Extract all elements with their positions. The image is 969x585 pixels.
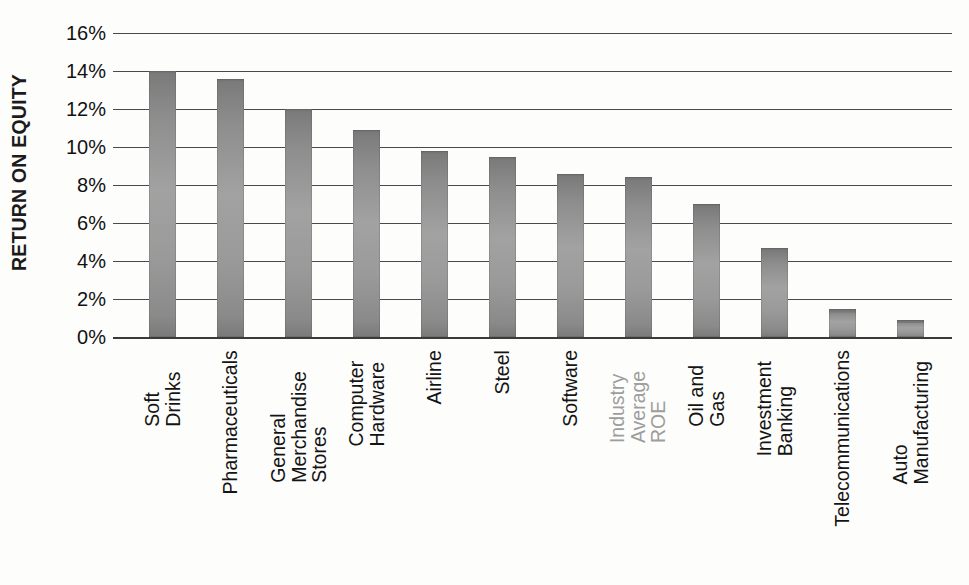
x-axis-category-label-text: Soft Drinks [142, 361, 183, 427]
x-axis-category-label-text: Investment Banking [754, 361, 795, 456]
bar[interactable] [625, 177, 652, 337]
bar[interactable] [217, 79, 244, 337]
y-axis-title-label: RETURN ON EQUITY [9, 74, 32, 271]
x-axis-category-label[interactable]: Auto Manufacturing [878, 340, 944, 580]
x-axis-category-label-text: Steel [492, 350, 513, 394]
bar[interactable] [421, 151, 448, 337]
x-axis-category-labels: Soft DrinksPharmaceuticalsGeneral Mercha… [113, 340, 952, 585]
bar[interactable] [693, 204, 720, 337]
roe-bar-chart: RETURN ON EQUITY 16%14%12%10%8%6%4%2%0% … [0, 0, 969, 585]
y-axis-tick-label: 2% [42, 289, 106, 309]
x-axis-category-label[interactable]: Investment Banking [742, 340, 808, 580]
x-axis-category-label[interactable]: Industry Average ROE [606, 340, 672, 580]
x-axis-category-label-text: Pharmaceuticals [220, 350, 241, 494]
x-axis-category-label-text: Telecommunications [832, 350, 853, 527]
y-axis-tick-label: 4% [42, 251, 106, 271]
bar[interactable] [489, 157, 516, 338]
gridline [113, 33, 952, 34]
bar[interactable] [761, 248, 788, 337]
y-axis-tick-label: 8% [42, 175, 106, 195]
x-axis-category-label-text: Oil and Gas [686, 361, 727, 427]
y-axis-tick-label: 14% [42, 61, 106, 81]
bar[interactable] [829, 309, 856, 338]
bar[interactable] [149, 71, 176, 337]
bar[interactable] [285, 109, 312, 337]
x-axis-category-label-text: Airline [424, 350, 445, 404]
y-axis-tick-label: 6% [42, 213, 106, 233]
x-axis-category-label[interactable]: General Merchandise Stores [266, 340, 332, 580]
x-axis-category-label[interactable]: Soft Drinks [130, 340, 196, 580]
x-axis-category-label[interactable]: Software [538, 340, 604, 580]
y-axis-tick-label: 12% [42, 99, 106, 119]
y-axis-tick-label: 0% [42, 327, 106, 347]
x-axis-category-label[interactable]: Oil and Gas [674, 340, 740, 580]
bar[interactable] [557, 174, 584, 337]
x-axis-category-label[interactable]: Steel [470, 340, 536, 580]
y-axis-title: RETURN ON EQUITY [0, 0, 40, 345]
x-axis-category-label-text: Auto Manufacturing [890, 361, 931, 485]
x-axis-category-label-text: General Merchandise Stores [268, 371, 330, 483]
bar[interactable] [353, 130, 380, 337]
x-axis-category-label-text: Computer Hardware [346, 361, 387, 447]
x-axis-category-label[interactable]: Airline [402, 340, 468, 580]
y-axis-tick-label: 10% [42, 137, 106, 157]
x-axis-category-label[interactable]: Telecommunications [810, 340, 876, 580]
bar[interactable] [897, 320, 924, 337]
plot-area [113, 33, 952, 337]
x-axis-category-label[interactable]: Computer Hardware [334, 340, 400, 580]
gridline [113, 71, 952, 72]
x-axis-category-label[interactable]: Pharmaceuticals [198, 340, 264, 580]
x-axis-category-label-text: Software [560, 350, 581, 427]
y-axis-tick-labels: 16%14%12%10%8%6%4%2%0% [40, 33, 106, 337]
axis-baseline [113, 337, 952, 339]
x-axis-category-label-text: Industry Average ROE [608, 371, 670, 443]
y-axis-tick-label: 16% [42, 23, 106, 43]
